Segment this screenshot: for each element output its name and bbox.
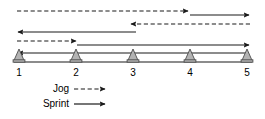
cone-triangle: [71, 49, 81, 61]
cone-triangle: [185, 49, 195, 61]
movement-paths-group: [17, 11, 250, 53]
cone-triangle: [242, 49, 252, 61]
cone-base: [70, 60, 82, 62]
cone-base: [127, 60, 139, 62]
cone-triangle: [14, 49, 24, 61]
cone-number-label: 4: [187, 67, 193, 78]
legend-label-jog: Jog: [53, 83, 69, 94]
legend-item-sprint: Sprint: [43, 98, 105, 109]
legend-group: JogSprint: [43, 83, 105, 109]
cone-number-label: 2: [73, 67, 79, 78]
cone-number-label: 1: [16, 67, 22, 78]
cone-base: [241, 60, 253, 62]
cone-base: [13, 60, 25, 62]
cone-number-label: 5: [244, 67, 250, 78]
cone-number-label: 3: [130, 67, 136, 78]
cone-base: [184, 60, 196, 62]
legend-label-sprint: Sprint: [43, 98, 69, 109]
diagram-canvas: 12345 JogSprint: [0, 0, 265, 119]
shuttle-run-diagram: 12345 JogSprint: [0, 0, 265, 119]
legend-item-jog: Jog: [53, 83, 105, 94]
cone-triangle: [128, 49, 138, 61]
